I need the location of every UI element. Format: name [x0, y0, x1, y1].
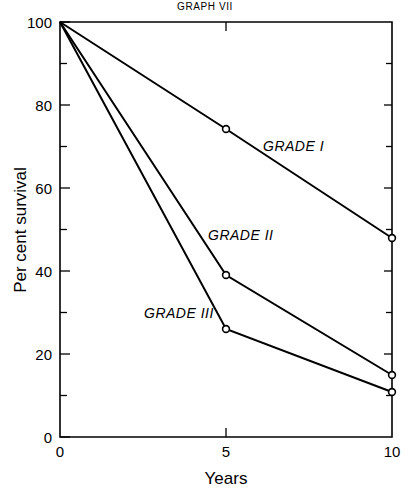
x-tick-5: 5 [222, 443, 230, 460]
series-grade-3: GRADE III [60, 22, 395, 395]
x-axis-tick-labels: 0 5 10 [56, 443, 401, 460]
y-tick-60: 60 [35, 180, 52, 197]
series-label-grade-3: GRADE III [144, 305, 214, 321]
series-grade-2: GRADE II [60, 22, 395, 378]
y-axis-minor-ticks [60, 64, 67, 396]
y-axis-right-ticks [384, 64, 392, 396]
data-point-marker [223, 272, 230, 279]
y-tick-0: 0 [44, 429, 52, 446]
series-grade-1: GRADE I [60, 22, 395, 241]
x-axis-title: Years [205, 469, 248, 488]
chart-figure: GRAPH VII [0, 0, 410, 492]
y-axis-tick-labels: 0 20 40 60 80 100 [27, 14, 52, 446]
y-tick-80: 80 [35, 97, 52, 114]
y-tick-100: 100 [27, 14, 52, 31]
series-label-grade-1: GRADE I [263, 138, 324, 154]
y-tick-20: 20 [35, 346, 52, 363]
survival-curve-plot: 0 20 40 60 80 100 0 5 10 Years Per cent … [0, 0, 410, 492]
series-grade-2-line [60, 22, 392, 375]
y-axis-title: Per cent survival [11, 167, 30, 293]
data-point-marker [223, 126, 230, 133]
x-tick-10: 10 [384, 443, 401, 460]
data-point-marker [389, 372, 396, 379]
x-tick-0: 0 [56, 443, 64, 460]
series-label-grade-2: GRADE II [208, 227, 273, 243]
data-point-marker [389, 389, 396, 396]
data-point-marker [223, 326, 230, 333]
y-tick-40: 40 [35, 263, 52, 280]
series-grade-3-line [60, 22, 392, 392]
data-point-marker [389, 235, 396, 242]
